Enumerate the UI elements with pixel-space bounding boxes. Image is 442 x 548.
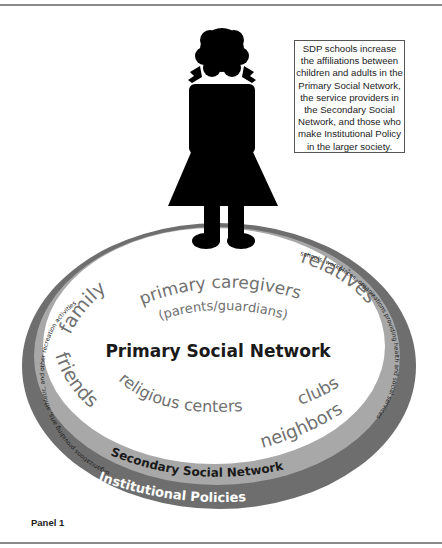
child-silhouette-icon [168,28,278,249]
panel-label: Panel 1 [31,517,64,528]
primary-social-network-title: Primary Social Network [105,341,331,361]
sdp-callout-box: SDP schools increase the affiliations be… [294,40,405,153]
